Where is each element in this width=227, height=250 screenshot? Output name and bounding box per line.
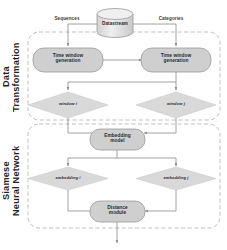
node-window-j xyxy=(136,92,216,118)
node-embedding-i xyxy=(28,167,108,190)
edge-embedding-model-to-embeddings xyxy=(68,150,176,166)
node-embedding-j xyxy=(136,167,216,190)
datastream-cylinder xyxy=(97,9,133,38)
diagram-vector-layer xyxy=(0,0,227,250)
edge-twg-to-windows xyxy=(68,72,176,90)
node-distance-module xyxy=(90,201,145,222)
node-time-window-generation-left xyxy=(33,48,103,72)
node-embedding-model xyxy=(90,129,145,150)
node-time-window-generation-right xyxy=(141,48,211,72)
node-window-i xyxy=(28,92,108,118)
diagram-canvas: Data Transformation Siamese Neural Netwo… xyxy=(0,0,227,250)
group-title-siamese-neural-network: Siamese Neural Network xyxy=(1,140,22,222)
edge-label-categories: Categories xyxy=(146,16,196,21)
group-title-data-transformation: Data Transformation xyxy=(1,40,22,114)
edge-label-sequences: Sequences xyxy=(44,16,90,21)
